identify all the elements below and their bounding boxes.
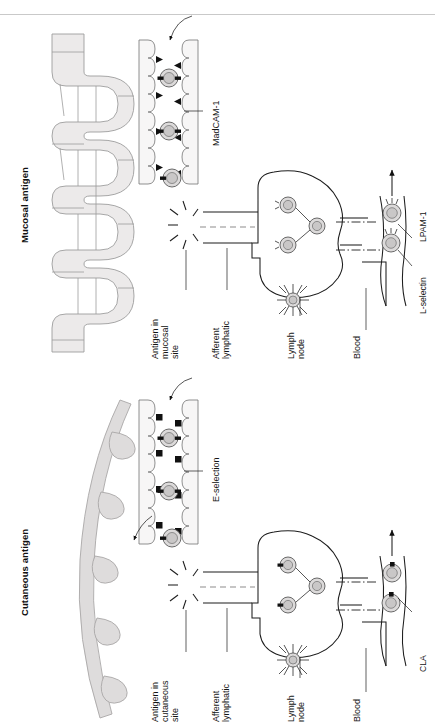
lymphocyte [309, 578, 325, 594]
lymphocyte [158, 429, 182, 447]
blood-vessel-branch [362, 262, 386, 306]
blood-vessel-wall [402, 196, 406, 306]
diagram-artwork [0, 0, 435, 727]
skin-icon [79, 400, 135, 718]
cutaneous-endothelium [134, 378, 203, 547]
blood-vessel-branch [362, 622, 386, 666]
antigen-burst-cutaneous [168, 561, 198, 609]
node-lymphocytes [278, 557, 326, 613]
figure-canvas: Mucosal antigen Antigen in mucosal site … [0, 0, 435, 727]
node-lymphocytes [275, 197, 325, 253]
lymphocyte [278, 597, 297, 613]
lpam1-leader [398, 224, 412, 238]
antigen-burst [168, 201, 198, 249]
intestine-icon [52, 34, 134, 352]
lymphocyte [309, 218, 325, 234]
entry-arrow [170, 16, 192, 40]
blood-lymphocyte [383, 562, 401, 582]
cutaneous-lymph-node-group [168, 530, 412, 692]
blood-lymphocyte [383, 198, 401, 222]
lymphocyte-extravasating [160, 169, 181, 187]
lymphocyte [275, 237, 296, 253]
mucosal-rolling-lymphocytes [158, 69, 182, 187]
blood-vessel-wall [402, 556, 406, 666]
blood-lymphocyte [382, 592, 400, 612]
entry-arrow-cutaneous [170, 378, 192, 400]
lymphocyte-extravasating [160, 529, 181, 547]
blood-lymphocyte [382, 228, 400, 252]
mucosal-lymph-node-group [168, 170, 412, 330]
lymphocyte [278, 557, 297, 573]
mucosal-endothelium [139, 16, 203, 187]
lymph-node-capsule [252, 171, 343, 298]
lymph-node-capsule [252, 531, 343, 658]
lymphocyte [158, 69, 182, 87]
dendritic-cell [277, 284, 309, 316]
lymphocyte [275, 197, 296, 213]
dendritic-cell [277, 644, 309, 676]
